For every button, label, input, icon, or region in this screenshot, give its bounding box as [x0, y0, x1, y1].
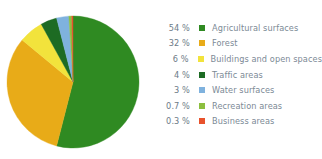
- legend-row[interactable]: 54 %Agricultural surfaces: [152, 20, 322, 36]
- legend-row[interactable]: 6 %Buildings and open spaces: [152, 51, 322, 67]
- legend-color-swatch-icon: [199, 103, 205, 109]
- legend-label: Business areas: [212, 116, 274, 126]
- legend-label: Agricultural surfaces: [212, 23, 298, 33]
- legend-percentage: 0.3 %: [152, 116, 190, 126]
- legend-label: Forest: [212, 38, 238, 48]
- legend-color-swatch-icon: [199, 72, 205, 78]
- legend-color-swatch-icon: [199, 118, 205, 124]
- pie-chart-svg: [7, 16, 139, 148]
- legend-label: Buildings and open spaces: [211, 54, 322, 64]
- land-use-pie-chart-figure: 54 %Agricultural surfaces32 %Forest6 %Bu…: [0, 0, 322, 159]
- legend-label: Recreation areas: [212, 101, 282, 111]
- legend-percentage: 32 %: [152, 38, 190, 48]
- pie-slice-group: [7, 16, 139, 148]
- legend-row[interactable]: 0.3 %Business areas: [152, 114, 322, 130]
- legend-percentage: 6 %: [152, 54, 189, 64]
- legend-percentage: 0.7 %: [152, 101, 190, 111]
- legend-percentage: 54 %: [152, 23, 190, 33]
- pie-chart-graphic: [7, 16, 139, 148]
- legend-percentage: 3 %: [152, 85, 190, 95]
- legend-color-swatch-icon: [198, 56, 204, 62]
- legend-label: Traffic areas: [212, 70, 263, 80]
- chart-legend: 54 %Agricultural surfaces32 %Forest6 %Bu…: [152, 20, 322, 129]
- legend-row[interactable]: 32 %Forest: [152, 36, 322, 52]
- legend-color-swatch-icon: [199, 25, 205, 31]
- legend-label: Water surfaces: [212, 85, 274, 95]
- legend-percentage: 4 %: [152, 70, 190, 80]
- legend-row[interactable]: 4 %Traffic areas: [152, 67, 322, 83]
- legend-color-swatch-icon: [199, 87, 205, 93]
- legend-row[interactable]: 0.7 %Recreation areas: [152, 98, 322, 114]
- legend-row[interactable]: 3 %Water surfaces: [152, 82, 322, 98]
- legend-color-swatch-icon: [199, 40, 205, 46]
